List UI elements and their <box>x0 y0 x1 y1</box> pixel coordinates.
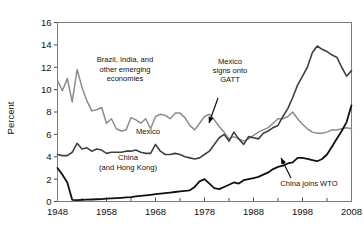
china-wto-annotation: China joins WTO <box>280 179 337 188</box>
y-tick-label: 14 <box>41 39 52 50</box>
x-tick-label: 1978 <box>194 206 215 217</box>
series-label-1: Mexico <box>136 127 160 136</box>
series-label-2: (and Hong Kong) <box>99 163 157 172</box>
y-tick-label: 12 <box>41 62 52 73</box>
series-label-0: economies <box>107 74 144 83</box>
mexico-gatt-annotation: Mexico <box>218 57 242 66</box>
mexico-gatt-annotation: signs onto <box>213 66 248 75</box>
line-chart: Percent 0246810121416 194819581968197819… <box>0 0 364 231</box>
series-label-2: China <box>118 153 139 162</box>
series-label-0: other emerging <box>99 65 150 74</box>
y-tick-label: 4 <box>46 151 51 162</box>
x-tick-label: 1968 <box>145 206 166 217</box>
chart-container: Percent 0246810121416 194819581968197819… <box>0 0 364 231</box>
x-tick-label: 1988 <box>243 206 264 217</box>
x-tick-label: 1948 <box>47 206 68 217</box>
x-tick-label: 1998 <box>292 206 313 217</box>
y-tick-label: 6 <box>46 129 51 140</box>
y-axis-title: Percent <box>5 101 16 134</box>
series-label-0: Brazil, India, and <box>97 55 154 64</box>
y-tick-label: 2 <box>46 174 51 185</box>
y-tick-label: 8 <box>46 106 51 117</box>
y-tick-label: 16 <box>41 17 52 28</box>
x-tick-label: 2008 <box>341 206 362 217</box>
x-tick-label: 1958 <box>96 206 117 217</box>
y-tick-label: 10 <box>41 84 52 95</box>
mexico-gatt-annotation: GATT <box>220 75 240 84</box>
